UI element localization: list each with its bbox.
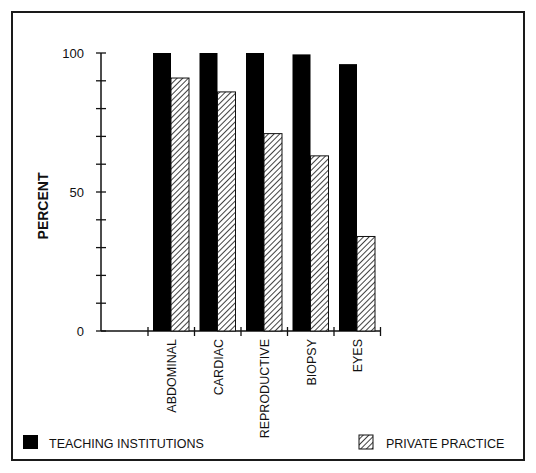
bar-biopsy-private	[311, 156, 329, 331]
bar-abdominal-teaching	[153, 53, 171, 331]
bar-biopsy-teaching	[293, 54, 311, 331]
bar-chart: PERCENT 100 50 0 ABDOMINALCARDIACREPRODU…	[0, 0, 536, 473]
bar-eyes-private	[357, 236, 375, 331]
bar-cardiac-teaching	[200, 53, 218, 331]
bar-reproductive-teaching	[246, 53, 264, 331]
y-axis-label: PERCENT	[35, 172, 51, 239]
legend-swatch-teaching	[23, 435, 38, 449]
bars	[153, 53, 375, 331]
x-label-cardiac: CARDIAC	[212, 339, 226, 395]
x-label-reproductive: REPRODUCTIVE	[258, 339, 272, 438]
axes	[96, 53, 381, 336]
y-tick-label-100: 100	[62, 46, 84, 61]
legend-swatch-private	[359, 435, 373, 449]
legend-label-teaching: TEACHING INSTITUTIONS	[49, 437, 204, 451]
y-tick-label-0: 0	[77, 324, 84, 339]
x-label-eyes: EYES	[351, 339, 365, 372]
bar-reproductive-private	[264, 134, 282, 331]
bar-cardiac-private	[218, 92, 236, 331]
bar-abdominal-private	[171, 78, 189, 331]
y-tick-label-50: 50	[70, 185, 84, 200]
x-label-biopsy: BIOPSY	[305, 338, 319, 385]
x-label-abdominal: ABDOMINAL	[165, 339, 179, 413]
legend-label-private: PRIVATE PRACTICE	[386, 437, 504, 451]
bar-eyes-teaching	[339, 64, 357, 331]
x-axis-labels: ABDOMINALCARDIACREPRODUCTIVEBIOPSYEYES	[165, 338, 365, 438]
